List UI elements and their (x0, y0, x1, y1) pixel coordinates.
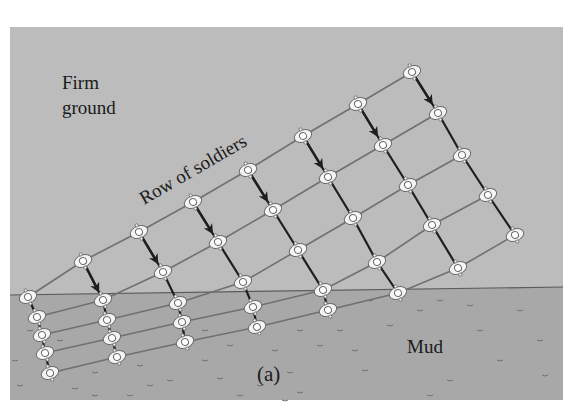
figure-part-label: (a) (257, 362, 280, 386)
firm-ground-label-line1: Firm (62, 72, 99, 93)
firm-ground-label-line2: ground (62, 97, 116, 118)
mud-mark (282, 400, 288, 401)
soldiers-refraction-diagram: Firm ground Row of soldiers Mud (a) (0, 0, 587, 406)
mud-area (10, 287, 563, 400)
mud-label: Mud (407, 336, 443, 357)
